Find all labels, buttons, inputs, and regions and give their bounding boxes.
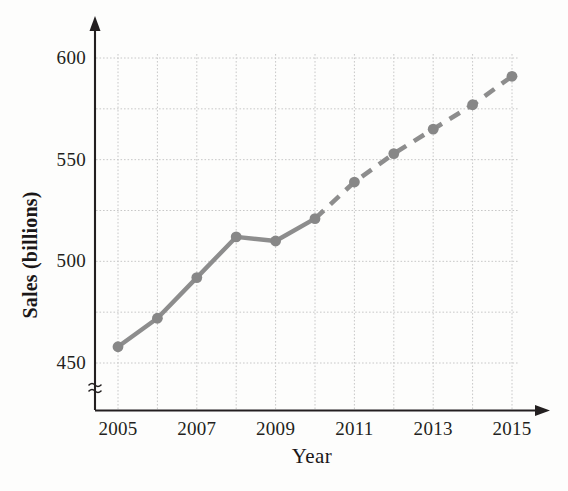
x-axis-arrow-head bbox=[535, 405, 550, 416]
x-axis bbox=[95, 405, 550, 416]
data-point-2011 bbox=[349, 177, 360, 188]
data-point-2007 bbox=[191, 272, 202, 283]
data-point-2015 bbox=[507, 71, 518, 82]
y-axis-title: Sales (billions) bbox=[19, 191, 42, 318]
data-point-2009 bbox=[270, 236, 281, 247]
x-tick-2007: 2007 bbox=[177, 418, 216, 440]
series-projected-line bbox=[315, 76, 512, 218]
data-point-2012 bbox=[388, 148, 399, 159]
x-tick-2011: 2011 bbox=[335, 418, 374, 440]
x-tick-2013: 2013 bbox=[414, 418, 453, 440]
y-tick-550: 550 bbox=[40, 149, 86, 171]
sales-line-chart: 600550500450 200520072009201120132015 Sa… bbox=[0, 0, 568, 491]
data-point-2013 bbox=[428, 124, 439, 135]
data-point-2005 bbox=[113, 341, 124, 352]
y-axis bbox=[90, 16, 101, 410]
y-axis-arrow-head bbox=[90, 16, 101, 31]
y-tick-500: 500 bbox=[40, 250, 86, 272]
data-point-2008 bbox=[231, 232, 242, 243]
y-tick-450: 450 bbox=[40, 352, 86, 374]
vertical-gridlines bbox=[118, 54, 512, 410]
x-tick-2009: 2009 bbox=[256, 418, 295, 440]
x-tick-2015: 2015 bbox=[492, 418, 531, 440]
data-point-2014 bbox=[467, 99, 478, 110]
y-tick-600: 600 bbox=[40, 47, 86, 69]
x-tick-2005: 2005 bbox=[98, 418, 137, 440]
series-actual-line bbox=[118, 219, 315, 347]
x-axis-title: Year bbox=[292, 444, 333, 469]
data-point-2010 bbox=[310, 213, 321, 224]
data-point-2006 bbox=[152, 313, 163, 324]
